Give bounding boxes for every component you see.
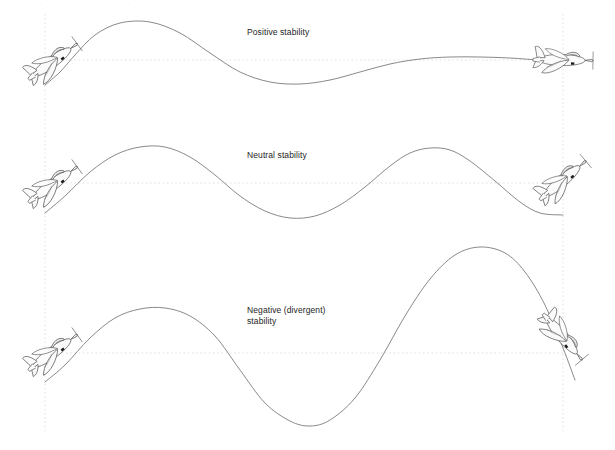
row-label-neutral-stability: Neutral stability (247, 150, 307, 161)
flight-path-curves-group (45, 21, 575, 426)
aircraft-silhouette-positive-start (21, 33, 86, 90)
aircraft-silhouettes-group (21, 33, 595, 381)
row-label-positive-stability: Positive stability (247, 27, 309, 38)
aircraft-silhouette-neutral-start (21, 156, 86, 213)
stability-diagram: · · · · (0, 0, 615, 450)
diagram-canvas (0, 0, 615, 450)
reference-lines-group (45, 14, 563, 432)
aircraft-silhouette-neutral-end (531, 151, 594, 210)
flight-path-curve-negative (45, 247, 575, 426)
row-label-negative-stability: Negative (divergent) stability (247, 305, 326, 327)
aircraft-silhouette-negative-start (21, 324, 86, 381)
